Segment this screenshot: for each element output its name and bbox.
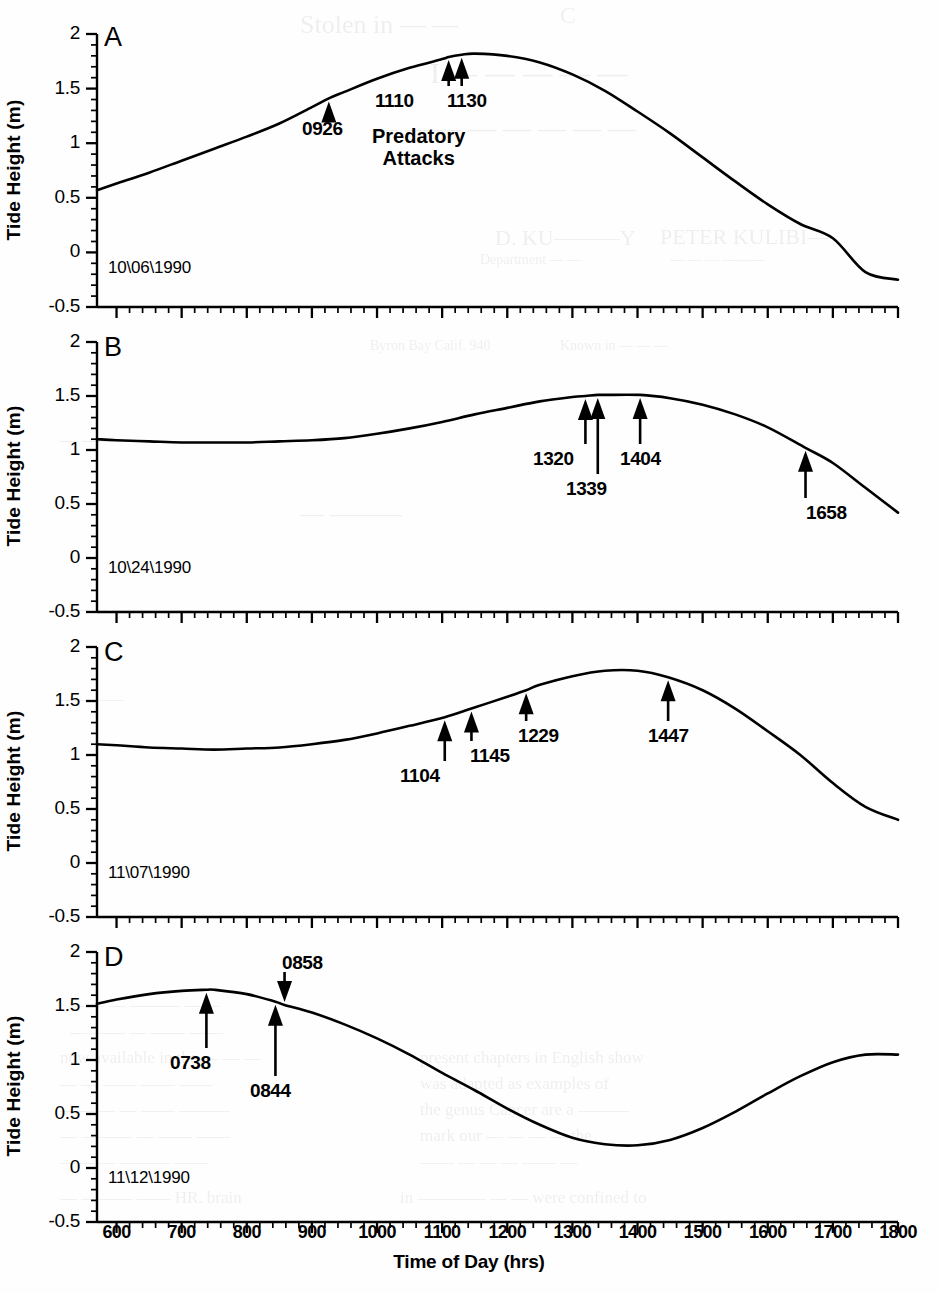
x-tick-label: 900 [281, 1222, 343, 1243]
attack-annotation-arrow [268, 1005, 283, 1076]
attack-annotation-arrow [464, 712, 479, 741]
attack-annotation-arrow [590, 398, 605, 474]
attack-annotation-arrow [661, 680, 676, 721]
x-tick-label: 1800 [867, 1222, 929, 1243]
x-tick-label: 1400 [607, 1222, 669, 1243]
plot-area [0, 625, 938, 930]
attack-time-label: 1339 [566, 478, 607, 500]
y-tick-label: 1.5 [28, 689, 80, 711]
x-tick-label: 800 [216, 1222, 278, 1243]
y-tick-label: 0.5 [28, 797, 80, 819]
attack-annotation-arrow [798, 451, 813, 498]
attack-time-label: 1145 [470, 745, 510, 767]
y-tick-label: 1.5 [28, 77, 80, 99]
attack-time-label: 1447 [648, 725, 689, 747]
attack-annotation-arrow [578, 399, 593, 444]
y-tick-label: -0.5 [28, 295, 80, 317]
attack-time-label: 1658 [806, 502, 847, 524]
y-tick-label: 2 [28, 22, 80, 44]
x-tick-label: 1100 [411, 1222, 473, 1243]
y-tick-label: -0.5 [28, 600, 80, 622]
panel-a: Tide Height (m) A 10\06\1990 Predatory A… [0, 0, 938, 320]
y-tick-label: 1 [28, 131, 80, 153]
attack-time-label: 1130 [447, 90, 487, 112]
x-tick-label: 1500 [672, 1222, 734, 1243]
y-tick-label: 2 [28, 330, 80, 352]
x-tick-label: 700 [151, 1222, 213, 1243]
attack-annotation-arrow [454, 58, 469, 86]
attack-time-label: 1229 [518, 725, 559, 747]
x-tick-label: 1300 [541, 1222, 603, 1243]
x-tick-label: 1200 [476, 1222, 538, 1243]
plot-area [0, 930, 938, 1235]
y-tick-label: 2 [28, 940, 80, 962]
plot-area [0, 0, 938, 320]
y-tick-label: 1.5 [28, 994, 80, 1016]
tide-height-figure: Tide Height (m) A 10\06\1990 Predatory A… [0, 0, 938, 1293]
attack-time-label: 1110 [375, 90, 414, 112]
y-tick-label: -0.5 [28, 1210, 80, 1232]
x-tick-label: 1600 [737, 1222, 799, 1243]
y-tick-label: -0.5 [28, 905, 80, 927]
y-tick-label: 1.5 [28, 384, 80, 406]
y-tick-label: 1 [28, 438, 80, 460]
y-tick-label: 0.5 [28, 492, 80, 514]
attack-time-label: 1404 [620, 448, 661, 470]
attack-time-label: 1104 [400, 765, 440, 787]
plot-area [0, 320, 938, 625]
attack-time-label: 0858 [282, 952, 323, 974]
attack-time-label: 0738 [170, 1052, 211, 1074]
y-tick-label: 0 [28, 240, 80, 262]
y-tick-label: 0 [28, 1156, 80, 1178]
x-tick-label: 1000 [346, 1222, 408, 1243]
panel-c: Tide Height (m) C 11\07\1990 21.510.50-0… [0, 625, 938, 930]
x-axis-title: Time of Day (hrs) [0, 1251, 938, 1273]
attack-annotation-arrow [437, 720, 452, 761]
attack-annotation-arrow [199, 993, 214, 1048]
y-tick-label: 0 [28, 851, 80, 873]
attack-time-label: 0844 [250, 1080, 291, 1102]
attack-annotation-arrow [441, 60, 456, 86]
attack-annotation-arrow [277, 972, 292, 1002]
x-tick-label: 1700 [802, 1222, 864, 1243]
x-tick-label: 600 [86, 1222, 148, 1243]
attack-time-label: 1320 [533, 448, 574, 470]
panel-d: Tide Height (m) D 11\12\1990 21.510.50-0… [0, 930, 938, 1235]
attack-time-label: 0926 [302, 118, 343, 140]
y-tick-label: 1 [28, 743, 80, 765]
attack-annotation-arrow [519, 693, 534, 721]
y-tick-label: 0.5 [28, 186, 80, 208]
y-tick-label: 1 [28, 1048, 80, 1070]
y-tick-label: 0.5 [28, 1102, 80, 1124]
panel-b: Tide Height (m) B 10\24\1990 21.510.50-0… [0, 320, 938, 625]
y-tick-label: 0 [28, 546, 80, 568]
y-tick-label: 2 [28, 635, 80, 657]
attack-annotation-arrow [633, 398, 648, 444]
